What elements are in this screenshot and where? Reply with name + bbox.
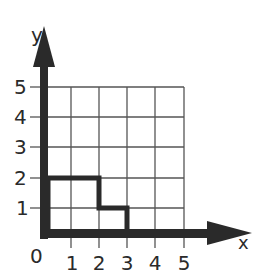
y-axis-label: y: [31, 23, 43, 47]
y-tick-4: 4: [14, 105, 27, 129]
y-tick-labels: 5 4 3 2 1: [14, 75, 29, 220]
x-tick-5: 5: [178, 251, 191, 275]
grid: [30, 87, 184, 248]
coordinate-diagram: y x 0 5 4 3 2 1 1 2 3 4 5: [0, 0, 268, 275]
x-tick-3: 3: [121, 251, 134, 275]
staircase-shape: [48, 178, 127, 234]
x-tick-2: 2: [93, 251, 106, 275]
x-tick-labels: 1 2 3 4 5: [66, 251, 191, 275]
x-axis-label: x: [238, 232, 249, 253]
y-tick-1: 1: [16, 196, 29, 220]
x-tick-1: 1: [66, 251, 79, 275]
x-tick-4: 4: [149, 251, 162, 275]
y-tick-5: 5: [14, 75, 27, 99]
x-axis: [40, 221, 252, 245]
y-tick-2: 2: [14, 166, 27, 190]
y-axis: [33, 26, 55, 239]
origin-label: 0: [30, 244, 43, 268]
y-tick-3: 3: [14, 135, 27, 159]
